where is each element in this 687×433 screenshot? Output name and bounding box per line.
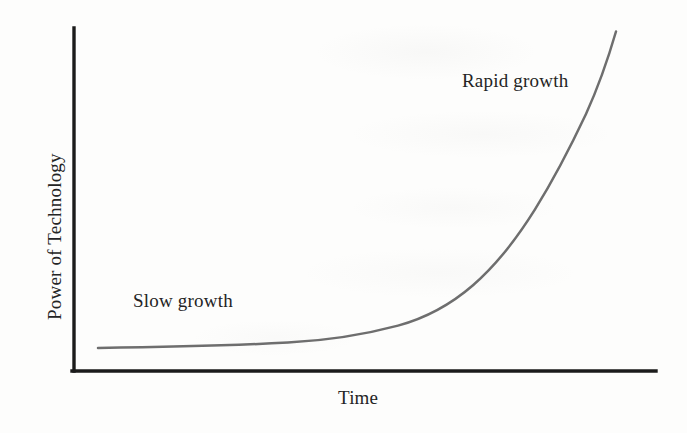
y-axis-label: Power of Technology [44,153,66,320]
x-axis-label: Time [338,387,378,409]
exponential-growth-chart [0,0,687,433]
figure-canvas: Power of Technology Time Slow growth Rap… [0,0,687,433]
slow-growth-annotation: Slow growth [133,290,233,312]
rapid-growth-annotation: Rapid growth [462,70,568,92]
